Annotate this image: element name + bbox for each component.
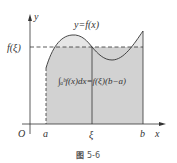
b-label: b	[140, 128, 145, 139]
x-axis-label: x	[154, 128, 160, 139]
caption-prefix: 图	[76, 151, 84, 160]
x-axis-arrow-icon	[159, 122, 166, 126]
y-axis-label: y	[33, 11, 39, 22]
f-xi-label: f(ξ)	[7, 42, 21, 54]
formula-label: ∫ₐᵇf(x)dx=f(ξ)(b−a)	[57, 76, 126, 87]
mean-value-theorem-diagram: y y=f(x) f(ξ) ∫ₐᵇf(x)dx=f(ξ)(b−a) O a ξ …	[0, 0, 177, 163]
a-label: a	[43, 128, 48, 139]
y-axis-arrow-icon	[28, 14, 32, 21]
curve-label: y=f(x)	[73, 19, 100, 31]
origin-label: O	[18, 128, 25, 139]
caption-number: 5-6	[87, 151, 100, 160]
xi-label: ξ	[89, 129, 94, 141]
